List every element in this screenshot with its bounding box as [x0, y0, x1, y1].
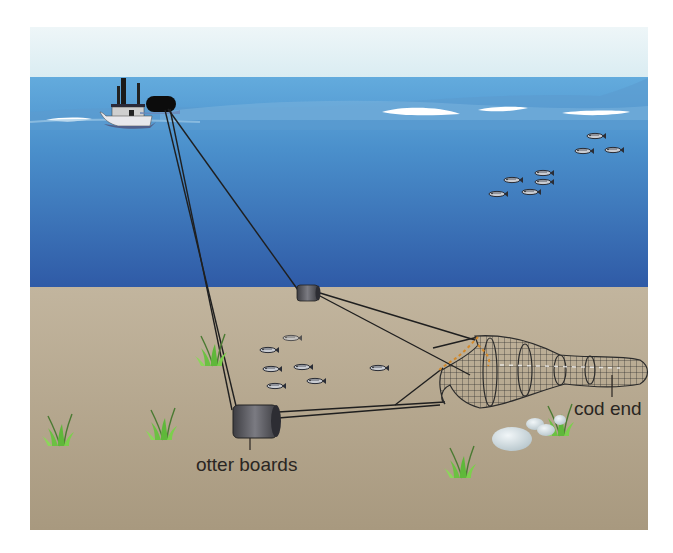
trawl-diagram [0, 0, 673, 553]
sky [30, 27, 648, 79]
otter-boards-label: otter boards [196, 455, 297, 474]
otter-board-upper [297, 285, 321, 301]
cod-end-label: cod end [574, 399, 642, 418]
